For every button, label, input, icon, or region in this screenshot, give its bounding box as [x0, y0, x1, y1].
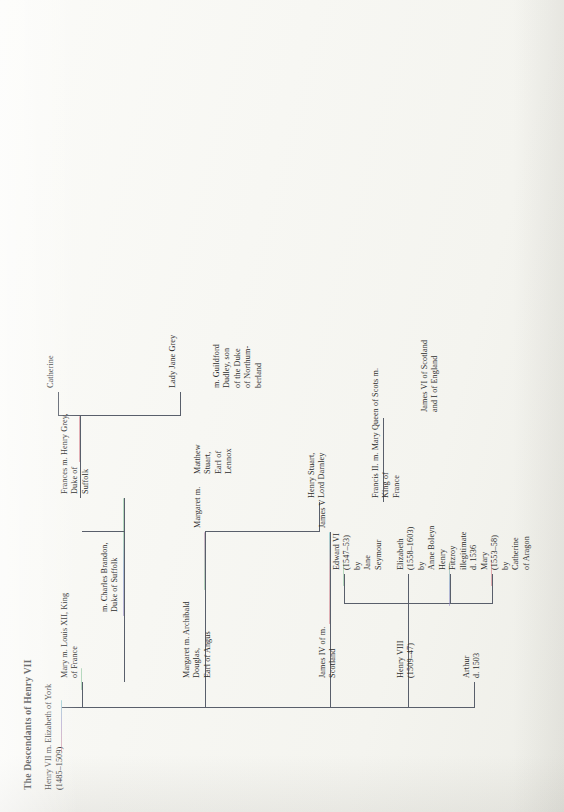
node-matthew-stuart: Matthew Stuart, Earl of Lennox — [193, 412, 235, 474]
node-james-vi: James VI of Scotland and I of England — [420, 272, 441, 412]
connector-to-arthur — [474, 682, 475, 708]
connector-margaret-2-down — [205, 531, 319, 532]
node-edward-vi: Edward VI (1547–53) by Jane Seymour — [332, 496, 384, 570]
node-frances-grey: Frances m. Henry Grey, Duke of Suffolk — [60, 364, 91, 494]
node-mary-tudor: Mary m. Louis XII, King of France — [60, 528, 81, 678]
node-arthur: Arthur d. 1503 — [462, 598, 483, 678]
connector-to-henry-fitzroy — [450, 574, 451, 604]
node-henry-viii: Henry VIII (1509–47) — [396, 598, 417, 678]
connector-to-margaret — [205, 682, 206, 708]
node-francis-ii-mary-qos: Francis II. m. Mary Queen of Scots m. Ki… — [371, 308, 402, 498]
node-charles-brandon: m. Charles Brandon, Duke of Suffolk — [100, 492, 121, 612]
node-james-iv: James IV of m. Scotland — [318, 588, 339, 678]
connector-to-henry-viii — [408, 682, 409, 708]
connector-brandon-to-frances — [124, 498, 125, 682]
node-elizabeth-i: Elizabeth (1558–1603) by Anne Boleyn — [396, 496, 438, 570]
page-title: The Descendants of Henry VII — [22, 659, 33, 790]
connector-to-mary-i — [492, 574, 493, 604]
genealogy-chart: The Descendants of Henry VII Henry VII m… — [0, 0, 564, 812]
node-henry-darnley: Henry Stuart, Lord Darnley — [307, 408, 328, 498]
connector-root-stem — [62, 707, 82, 708]
connector-to-mary-tudor — [82, 682, 83, 708]
connector-gen2-bus — [82, 707, 474, 708]
root-person-label: Henry VII m. Elizabeth of York (1485–150… — [44, 684, 65, 790]
connector-to-edward-vi — [344, 574, 345, 604]
node-lady-jane-grey: Lady Jane Grey — [168, 278, 178, 388]
node-margaret-angus: Margaret m. Archibald Douglas, Earl of A… — [182, 538, 213, 678]
node-mary-i: Mary (1553–58) by Catherine of Aragon — [480, 500, 532, 570]
node-catherine: Catherine — [46, 298, 56, 388]
node-henry-fitzroy: Henry Fitzroy illegitimate d. 1536 — [438, 500, 480, 570]
node-guildford-dudley: m. Guildford Dudley, son of the Duke of … — [212, 308, 264, 388]
rotated-chart-canvas: The Descendants of Henry VII Henry VII m… — [0, 0, 564, 812]
connector-to-james-iv — [330, 682, 331, 708]
connector-to-lady-jane-grey — [180, 392, 181, 416]
paper-page: The Descendants of Henry VII Henry VII m… — [0, 0, 564, 812]
connector-to-catherine — [58, 392, 59, 416]
